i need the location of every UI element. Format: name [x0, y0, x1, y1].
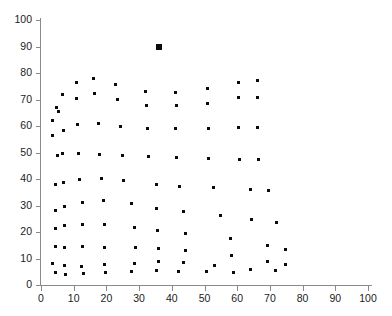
y-tick-label: 70 [4, 94, 32, 105]
data-point [81, 223, 84, 226]
data-point [229, 237, 232, 240]
data-point [103, 246, 106, 249]
data-point [104, 271, 107, 274]
data-point [256, 126, 259, 129]
data-point [213, 264, 216, 267]
data-point [238, 158, 241, 161]
data-point [182, 210, 185, 213]
data-point [97, 122, 100, 125]
x-tick-label: 60 [222, 293, 252, 304]
x-tick-label: 70 [255, 293, 285, 304]
data-point [63, 264, 66, 267]
data-point [237, 126, 240, 129]
data-point [114, 83, 117, 86]
x-tick-label: 40 [157, 293, 187, 304]
x-tick-label: 80 [288, 293, 318, 304]
data-point [61, 93, 64, 96]
data-point [119, 125, 122, 128]
data-point [81, 201, 84, 204]
x-tick-mark [74, 286, 75, 291]
data-point [122, 179, 125, 182]
data-point [63, 205, 66, 208]
data-point [100, 177, 103, 180]
data-point [145, 104, 148, 107]
x-tick-mark [270, 286, 271, 291]
data-point [256, 79, 259, 82]
data-point [54, 227, 57, 230]
data-point [249, 188, 252, 191]
data-point [266, 244, 269, 247]
data-point [175, 156, 178, 159]
data-point [51, 262, 54, 265]
x-tick-mark [303, 286, 304, 291]
x-tick-label: 20 [91, 293, 121, 304]
data-point [134, 246, 137, 249]
data-point [103, 263, 106, 266]
data-point [92, 77, 95, 80]
data-point [103, 223, 106, 226]
x-tick-mark [172, 286, 173, 291]
data-point [54, 245, 57, 248]
data-point [206, 87, 209, 90]
data-point [207, 127, 210, 130]
data-point [62, 181, 65, 184]
data-point [54, 183, 57, 186]
scatter-plot-figure: 0102030405060708090100010203040506070809… [0, 0, 392, 316]
data-point [250, 218, 253, 221]
data-point [182, 261, 185, 264]
y-tick-label: 20 [4, 226, 32, 237]
data-point [51, 119, 54, 122]
data-point [232, 271, 235, 274]
data-point [177, 270, 180, 273]
data-point [133, 226, 136, 229]
data-point [284, 263, 287, 266]
data-point [157, 260, 160, 263]
x-tick-mark [335, 286, 336, 291]
data-point [64, 273, 67, 276]
data-point [212, 186, 215, 189]
y-tick-label: 100 [4, 14, 32, 25]
data-point [237, 96, 240, 99]
plot-area [41, 20, 368, 285]
data-point [184, 249, 187, 252]
data-point [93, 92, 96, 95]
data-point [155, 183, 158, 186]
data-point [144, 90, 147, 93]
y-tick-label: 60 [4, 120, 32, 131]
data-point [267, 189, 270, 192]
data-point [174, 127, 177, 130]
data-point [146, 127, 149, 130]
data-point [62, 129, 65, 132]
x-tick-mark [368, 286, 369, 291]
y-tick-label: 50 [4, 147, 32, 158]
y-tick-label: 10 [4, 253, 32, 264]
data-point [57, 110, 60, 113]
data-point [174, 91, 177, 94]
data-point [284, 248, 287, 251]
data-point [61, 152, 64, 155]
data-point [102, 199, 105, 202]
data-point [207, 157, 210, 160]
data-point [78, 178, 81, 181]
data-point [249, 268, 252, 271]
data-point [184, 232, 187, 235]
data-point [237, 81, 240, 84]
x-tick-label: 50 [190, 293, 220, 304]
x-tick-mark [41, 286, 42, 291]
data-point [156, 229, 159, 232]
data-point [274, 269, 277, 272]
y-tick-label: 90 [4, 41, 32, 52]
data-point [76, 123, 79, 126]
data-point [256, 96, 259, 99]
outlier-data-point [156, 44, 162, 50]
data-point [80, 265, 83, 268]
data-point [75, 97, 78, 100]
data-point [130, 202, 133, 205]
data-point [130, 270, 133, 273]
data-point [116, 98, 119, 101]
x-tick-mark [205, 286, 206, 291]
data-point [230, 254, 233, 257]
x-tick-label: 10 [59, 293, 89, 304]
x-tick-mark [237, 286, 238, 291]
data-point [205, 270, 208, 273]
